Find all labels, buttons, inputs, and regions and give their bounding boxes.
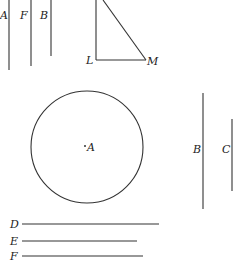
circle-a: A — [31, 91, 143, 203]
label-e: E — [9, 235, 18, 248]
center-point — [84, 145, 86, 147]
label-center-a: A — [86, 141, 95, 154]
triangle-lm: L M — [85, 0, 159, 68]
top-left-lines: A F B — [0, 0, 51, 70]
label-b-right: B — [192, 143, 201, 156]
geometry-diagram: A F B L M A B C D E F — [0, 0, 241, 280]
label-a-top: A — [0, 9, 8, 22]
bottom-lines: D E F — [9, 218, 159, 263]
label-b-top: B — [39, 9, 48, 22]
label-f-bottom: F — [9, 250, 18, 263]
label-d: D — [9, 218, 19, 231]
label-l: L — [85, 54, 93, 67]
right-lines: B C — [192, 93, 232, 209]
label-c-right: C — [222, 143, 231, 156]
label-f-top: F — [19, 9, 28, 22]
triangle-hypotenuse — [103, 0, 146, 60]
label-m: M — [146, 55, 159, 68]
